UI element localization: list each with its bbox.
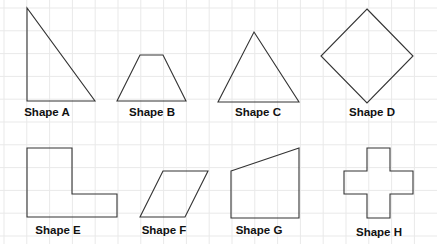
shape-f-parallelogram <box>140 171 208 217</box>
shape-f-label: Shape F <box>142 224 187 236</box>
shape-h-label: Shape H <box>356 226 402 238</box>
shape-h-cross <box>344 148 413 218</box>
shape-a-label: Shape A <box>24 106 70 118</box>
shapes-layer <box>0 0 437 244</box>
shape-g-label: Shape G <box>236 224 283 236</box>
shape-c-label: Shape C <box>235 106 281 118</box>
shape-b-trapezoid <box>117 55 186 101</box>
shape-d-rhombus <box>321 9 413 103</box>
shape-g-trapezoid <box>231 148 299 218</box>
shape-c-triangle <box>218 32 299 102</box>
shape-a-right-triangle <box>27 8 95 101</box>
shape-e-label: Shape E <box>35 224 80 236</box>
shape-e-l-shape <box>27 148 117 217</box>
shape-b-label: Shape B <box>129 106 175 118</box>
shapes-figure: Shape A Shape B Shape C Shape D Shape E … <box>0 0 437 244</box>
shape-d-label: Shape D <box>349 106 395 118</box>
